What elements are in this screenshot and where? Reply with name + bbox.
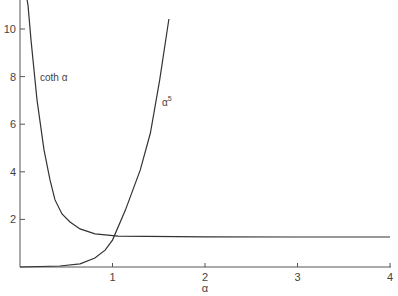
axes — [20, 0, 391, 267]
y-tick-label: 6 — [10, 118, 16, 130]
y-tick-label: 4 — [10, 166, 16, 178]
chart: 246810 1234 α coth α α5 — [0, 0, 398, 296]
alpha5-label: α5 — [162, 95, 172, 108]
x-tick-label: 4 — [387, 271, 393, 283]
y-tick-label: 10 — [4, 23, 16, 35]
x-axis-label: α — [202, 282, 209, 294]
coth-curve — [27, 0, 390, 237]
y-tick-label: 2 — [10, 213, 16, 225]
y-ticks: 246810 — [4, 23, 25, 225]
coth-label: coth α — [40, 72, 68, 83]
x-ticks: 1234 — [109, 263, 393, 283]
x-tick-label: 3 — [294, 271, 300, 283]
x-tick-label: 1 — [109, 271, 115, 283]
alpha5-curve — [20, 19, 169, 267]
alpha5-label-exp: 5 — [168, 95, 172, 102]
y-tick-label: 8 — [10, 71, 16, 83]
